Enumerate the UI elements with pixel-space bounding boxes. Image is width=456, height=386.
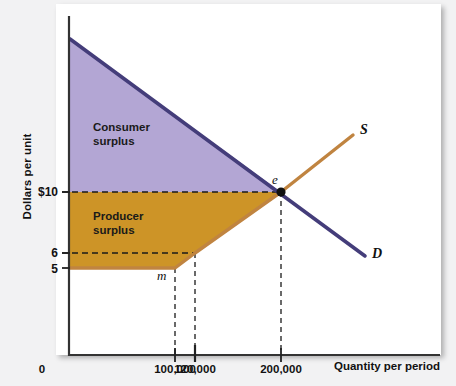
supply-curve-label: S — [360, 122, 368, 138]
equilibrium-point-marker — [276, 187, 285, 196]
y-tick-label-6: 6 — [10, 246, 58, 260]
figure-container: Dollars per unit $10 6 5 0 100,000 120,0… — [0, 0, 456, 386]
y-axis-title: Dollars per unit — [21, 116, 34, 236]
equilibrium-point-label: e — [272, 173, 278, 188]
y-tick-label-5: 5 — [10, 262, 58, 276]
chart-plot-area — [0, 0, 456, 386]
x-tick-label-120000: 120,000 — [155, 363, 235, 375]
x-axis-title: Quantity per period — [334, 360, 440, 373]
consumer-surplus-label-line2: surplus — [93, 135, 135, 148]
consumer-surplus-label-line1: Consumer — [93, 121, 150, 134]
x-axis-origin-label: 0 — [30, 363, 54, 375]
y-tick-label-10: $10 — [10, 185, 58, 199]
producer-surplus-label-line2: surplus — [93, 224, 135, 237]
producer-surplus-label-line1: Producer — [93, 210, 144, 223]
demand-curve-label: D — [372, 246, 382, 262]
supply-kink-point-label: m — [157, 269, 166, 284]
x-tick-label-200000: 200,000 — [241, 363, 321, 375]
